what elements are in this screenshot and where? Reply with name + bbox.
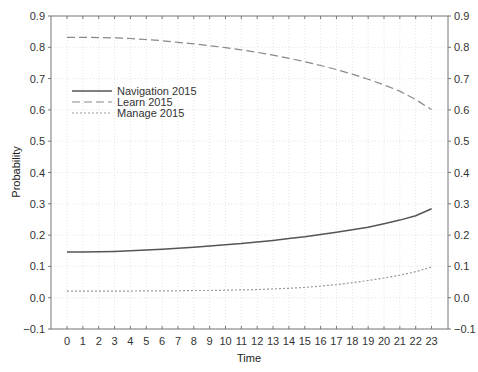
y-tick-label-right: 0.0: [454, 292, 469, 304]
x-tick-label: 8: [191, 335, 197, 347]
x-tick-label: 10: [219, 335, 231, 347]
x-tick-label: 20: [378, 335, 390, 347]
y-tick-label-left: 0.1: [30, 260, 45, 272]
x-tick-label: 17: [330, 335, 342, 347]
y-axis-right: −0.10.00.10.20.30.40.50.60.70.80.9: [448, 10, 476, 335]
gridlines: [51, 16, 448, 329]
x-tick-label: 22: [410, 335, 422, 347]
y-tick-label-left: 0.3: [30, 198, 45, 210]
y-tick-label-left: −0.1: [23, 323, 45, 335]
y-tick-label-left: 0.2: [30, 229, 45, 241]
y-tick-label-left: 0.4: [30, 167, 45, 179]
series-navigation-2015: [67, 209, 432, 252]
series-manage-2015: [67, 267, 432, 291]
x-tick-label: 18: [346, 335, 358, 347]
y-tick-label-right: −0.1: [454, 323, 476, 335]
y-axis-title: Probability: [10, 146, 22, 198]
series-lines: [67, 37, 432, 291]
x-tick-label: 16: [314, 335, 326, 347]
y-tick-label-right: 0.6: [454, 104, 469, 116]
y-tick-label-right: 0.9: [454, 10, 469, 22]
x-tick-label: 6: [159, 335, 165, 347]
y-tick-label-right: 0.4: [454, 167, 469, 179]
y-tick-label-left: 0.6: [30, 104, 45, 116]
x-tick-label: 13: [267, 335, 279, 347]
x-tick-label: 12: [251, 335, 263, 347]
x-tick-label: 7: [175, 335, 181, 347]
x-tick-label: 14: [283, 335, 295, 347]
x-tick-label: 1: [80, 335, 86, 347]
y-tick-label-right: 0.2: [454, 229, 469, 241]
x-tick-label: 5: [143, 335, 149, 347]
x-tick-label: 11: [236, 335, 247, 347]
x-tick-label: 3: [111, 335, 117, 347]
y-tick-label-right: 0.8: [454, 41, 469, 53]
y-tick-label-right: 0.3: [454, 198, 469, 210]
x-tick-label: 15: [299, 335, 311, 347]
legend: Navigation 2015Learn 2015Manage 2015: [72, 85, 197, 119]
x-axis-title: Time: [237, 352, 261, 364]
y-tick-label-right: 0.5: [454, 135, 469, 147]
x-tick-label: 19: [362, 335, 374, 347]
y-tick-label-left: 0.7: [30, 73, 45, 85]
y-tick-label-left: 0.0: [30, 292, 45, 304]
x-tick-label: 4: [127, 335, 133, 347]
legend-label: Manage 2015: [117, 107, 184, 119]
x-tick-label: 23: [425, 335, 437, 347]
x-tick-label: 0: [64, 335, 70, 347]
y-tick-label-right: 0.7: [454, 73, 469, 85]
line-chart: −0.10.00.10.20.30.40.50.60.70.80.9 −0.10…: [0, 0, 478, 372]
y-tick-label-left: 0.9: [30, 10, 45, 22]
y-tick-label-left: 0.8: [30, 41, 45, 53]
y-axis-left: −0.10.00.10.20.30.40.50.60.70.80.9: [23, 10, 51, 335]
y-tick-label-right: 0.1: [454, 260, 469, 272]
x-tick-label: 2: [96, 335, 102, 347]
y-tick-label-left: 0.5: [30, 135, 45, 147]
x-tick-label: 9: [207, 335, 213, 347]
x-tick-label: 21: [394, 335, 406, 347]
